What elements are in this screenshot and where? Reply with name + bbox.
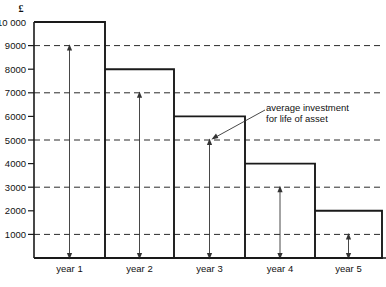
x-axis-label-year-2: year 2 [126, 263, 152, 274]
y-axis-label-4000: 4000 [5, 158, 26, 169]
y-axis-label-3000: 3000 [5, 182, 26, 193]
average-investment-arrows [67, 44, 351, 259]
x-axis-label-year-3: year 3 [196, 263, 222, 274]
chart-svg: £ 10 000 9000 8000 7000 [0, 0, 386, 287]
y-axis-unit-label: £ [19, 3, 24, 14]
y-axis-label-6000: 6000 [5, 111, 26, 122]
y-axis-tick-labels: 10 000 9000 8000 7000 6000 5000 4000 300… [0, 17, 26, 240]
annotation-line-1: average investment [266, 102, 349, 113]
y-axis-label-9000: 9000 [5, 40, 26, 51]
y-axis-label-10000: 10 000 [0, 17, 26, 28]
annotation-average-investment: average investment for life of asset [211, 102, 349, 139]
y-axis [28, 22, 34, 258]
avg-arrow-year-4 [277, 186, 282, 260]
annotation-leader-line [214, 110, 265, 138]
avg-arrow-year-5 [346, 233, 351, 259]
y-axis-label-7000: 7000 [5, 87, 26, 98]
annotation-arrowhead [211, 133, 218, 139]
y-axis-label-1000: 1000 [5, 229, 26, 240]
x-axis-label-year-5: year 5 [335, 263, 361, 274]
x-axis-label-year-4: year 4 [267, 263, 293, 274]
avg-arrow-year-1 [67, 44, 72, 259]
avg-arrow-year-3 [207, 139, 212, 260]
y-axis-label-2000: 2000 [5, 205, 26, 216]
gridlines-group [34, 46, 382, 235]
x-axis-label-year-1: year 1 [56, 263, 82, 274]
x-axis-tick-labels: year 1 year 2 year 3 year 4 year 5 [56, 263, 361, 274]
y-axis-label-8000: 8000 [5, 64, 26, 75]
annotation-line-2: for life of asset [266, 113, 328, 124]
bar-chart-figure: £ 10 000 9000 8000 7000 [0, 0, 386, 287]
y-axis-label-5000: 5000 [5, 135, 26, 146]
